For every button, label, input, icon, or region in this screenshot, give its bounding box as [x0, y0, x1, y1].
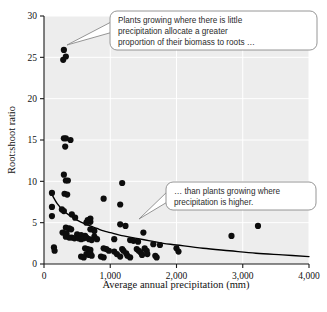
data-point — [117, 253, 123, 259]
y-tick-label: 30 — [28, 11, 38, 21]
data-point — [101, 196, 107, 202]
data-point — [157, 242, 163, 248]
data-point — [64, 191, 70, 197]
data-point — [154, 254, 160, 260]
data-point — [106, 248, 112, 254]
data-point — [140, 229, 146, 235]
data-point — [81, 254, 87, 260]
callout-upper-line-1: Plants growing where there is little — [118, 16, 243, 25]
data-point — [49, 190, 55, 196]
data-point — [63, 53, 69, 59]
data-point — [175, 249, 181, 255]
data-point — [122, 223, 128, 229]
data-point — [94, 236, 100, 242]
data-point — [52, 248, 58, 254]
y-tick-label: 15 — [28, 135, 38, 145]
data-point — [49, 213, 55, 219]
x-axis-title: Average annual precipitation (mm) — [102, 279, 250, 291]
data-point — [68, 226, 74, 232]
callout-upper-line-3: proportion of their biomass to roots … — [118, 38, 255, 47]
data-point — [83, 220, 89, 226]
data-point — [72, 215, 78, 221]
y-tick-label: 20 — [28, 94, 38, 104]
data-point — [139, 252, 145, 258]
data-point — [65, 177, 71, 183]
data-point — [228, 233, 234, 239]
callout-lower-line-1: … than plants growing where — [174, 187, 280, 196]
data-point — [67, 137, 73, 143]
data-point — [61, 172, 67, 178]
callout-lower-line-2: precipitation is higher. — [174, 198, 253, 207]
data-point — [62, 144, 68, 150]
y-tick-label: 5 — [32, 218, 37, 228]
data-point — [49, 204, 55, 210]
y-tick-label: 0 — [32, 259, 37, 269]
data-point — [117, 201, 123, 207]
data-point — [101, 254, 107, 260]
x-tick-label: 0 — [42, 271, 47, 281]
chart-figure: 051015202530 01,0002,0003,0004,000 Avera… — [0, 0, 327, 312]
x-tick-label: 4,000 — [298, 271, 320, 281]
data-point — [127, 254, 133, 260]
data-point — [89, 253, 95, 259]
data-point — [117, 221, 123, 227]
data-point — [255, 223, 261, 229]
scatter-plot-svg: 051015202530 01,0002,0003,0004,000 Avera… — [0, 0, 327, 312]
y-tick-label: 10 — [28, 177, 38, 187]
data-point — [119, 180, 125, 186]
y-axis-title: Root:shoot ratio — [6, 106, 17, 174]
data-point — [150, 241, 156, 247]
data-point — [111, 236, 117, 242]
y-tick-label: 25 — [28, 53, 38, 63]
data-point — [91, 228, 97, 234]
data-point — [135, 239, 141, 245]
y-axis-ticks: 051015202530 — [28, 11, 45, 269]
data-point — [61, 47, 67, 53]
data-point — [144, 251, 150, 257]
callout-upper-line-2: precipitation allocate a greater — [118, 27, 228, 36]
data-point — [61, 208, 67, 214]
